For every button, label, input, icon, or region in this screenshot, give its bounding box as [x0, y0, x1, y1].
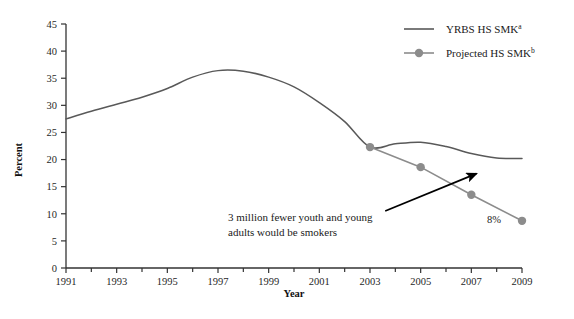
x-tick-label: 2003 [360, 276, 381, 287]
x-tick-label: 2009 [512, 276, 533, 287]
legend-label-0: YRBS HS SMKa [446, 22, 522, 35]
y-tick-label: 30 [47, 100, 58, 111]
y-tick-label: 5 [52, 236, 57, 247]
y-axis-ticks: 051015202530354045 [47, 19, 67, 274]
x-tick-label: 1999 [258, 276, 279, 287]
x-tick-label: 1993 [106, 276, 127, 287]
x-tick-label: 2007 [461, 276, 482, 287]
x-tick-label: 1991 [56, 276, 77, 287]
annotation-line-1: 3 million fewer youth and young [228, 211, 373, 223]
x-tick-label: 1995 [157, 276, 178, 287]
data-point-marker [518, 217, 526, 225]
annotation-line-2: adults would be smokers [228, 226, 337, 238]
series-line-yrbs [66, 70, 522, 158]
y-tick-label: 45 [47, 19, 58, 30]
series-projected-hs-smk [366, 143, 526, 225]
chart-legend: YRBS HS SMKaProjected HS SMKb [404, 22, 535, 59]
data-point-marker [416, 163, 424, 171]
legend-swatch-marker-1 [415, 49, 423, 57]
y-tick-label: 35 [47, 73, 58, 84]
x-tick-label: 2005 [410, 276, 431, 287]
x-axis-ticks: 1991199319951997199920012003200520072009 [56, 268, 533, 287]
series-yrbs-hs-smk [66, 70, 522, 158]
y-tick-label: 0 [52, 263, 57, 274]
y-tick-label: 25 [47, 127, 58, 138]
y-tick-label: 10 [47, 209, 58, 220]
y-tick-label: 40 [47, 46, 58, 57]
line-chart: 051015202530354045 199119931995199719992… [0, 0, 574, 319]
annotation-arrow-line [385, 174, 476, 211]
y-axis-title: Percent [13, 142, 24, 177]
legend-label-1: Projected HS SMKb [446, 46, 535, 59]
legend-footnote-1: b [531, 46, 535, 55]
annotation-arrow [385, 174, 476, 211]
data-point-marker [366, 143, 374, 151]
x-axis-title: Year [284, 288, 305, 299]
x-tick-label: 2001 [309, 276, 330, 287]
legend-footnote-0: a [518, 22, 522, 31]
chart-container: 051015202530354045 199119931995199719992… [0, 0, 574, 319]
data-point-marker [467, 191, 475, 199]
annotation-text-group: 3 million fewer youth and young adults w… [228, 211, 373, 238]
y-tick-label: 15 [47, 181, 58, 192]
y-tick-label: 20 [47, 154, 58, 165]
endpoint-value-label: 8% [487, 214, 501, 225]
x-tick-label: 1997 [208, 276, 229, 287]
